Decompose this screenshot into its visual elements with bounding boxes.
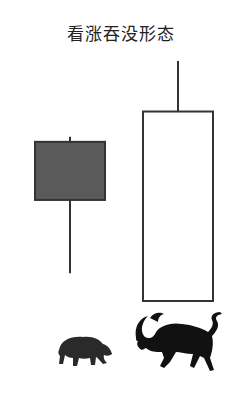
bullish-candle-body (143, 112, 213, 301)
bull-icon (130, 308, 230, 378)
bearish-candle-body (35, 142, 105, 200)
bear-icon (55, 330, 115, 372)
